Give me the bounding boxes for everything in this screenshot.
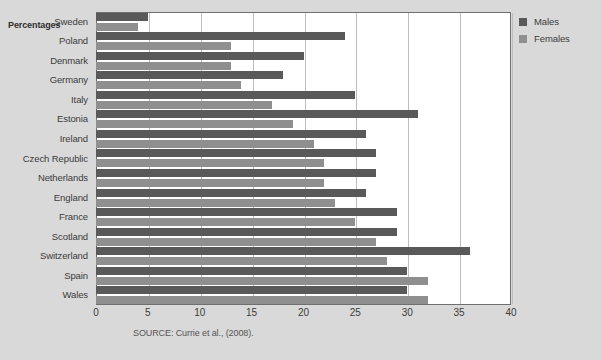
bar-females-france <box>96 218 355 226</box>
category-label-scotland: Scotland <box>52 231 88 242</box>
bar-group <box>96 129 511 149</box>
category-axis: SwedenPolandDenmarkGermanyItalyEstoniaIr… <box>0 12 92 305</box>
x-tick-label-0: 0 <box>93 307 99 318</box>
bar-females-poland <box>96 42 231 50</box>
bars-layer <box>96 12 511 305</box>
bar-females-germany <box>96 81 241 89</box>
legend: MalesFemales <box>519 16 570 50</box>
bar-group <box>96 227 511 247</box>
bar-males-germany <box>96 71 283 79</box>
bar-males-denmark <box>96 52 304 60</box>
bar-males-estonia <box>96 110 418 118</box>
bar-males-poland <box>96 32 345 40</box>
category-label-sweden: Sweden <box>54 16 88 27</box>
bar-males-czech-republic <box>96 149 376 157</box>
bar-females-switzerland <box>96 257 387 265</box>
bar-males-italy <box>96 91 355 99</box>
legend-swatch-icon <box>519 18 527 26</box>
x-tick-label-5: 5 <box>145 307 151 318</box>
bar-females-scotland <box>96 238 376 246</box>
bar-females-wales <box>96 296 428 304</box>
category-label-france: France <box>59 211 88 222</box>
bar-group <box>96 285 511 305</box>
x-tick-label-35: 35 <box>454 307 465 318</box>
bar-males-switzerland <box>96 247 470 255</box>
bar-females-netherlands <box>96 179 324 187</box>
bar-group <box>96 12 511 32</box>
x-tick-label-40: 40 <box>505 307 516 318</box>
x-tick-label-15: 15 <box>246 307 257 318</box>
bar-females-italy <box>96 101 272 109</box>
bar-group <box>96 71 511 91</box>
bar-group <box>96 246 511 266</box>
x-tick-label-25: 25 <box>350 307 361 318</box>
category-label-spain: Spain <box>64 270 88 281</box>
bar-group <box>96 32 511 52</box>
gridline <box>512 13 513 304</box>
x-axis-ticks: 0510152025303540 <box>96 307 511 323</box>
bar-males-sweden <box>96 13 148 21</box>
bar-females-ireland <box>96 140 314 148</box>
category-label-england: England <box>54 192 88 203</box>
category-label-switzerland: Switzerland <box>40 250 88 261</box>
bar-females-spain <box>96 277 428 285</box>
category-label-netherlands: Netherlands <box>38 172 88 183</box>
bar-females-sweden <box>96 23 138 31</box>
x-tick-label-30: 30 <box>402 307 413 318</box>
bar-females-estonia <box>96 120 293 128</box>
category-label-czech-republic: Czech Republic <box>23 153 88 164</box>
bar-group <box>96 266 511 286</box>
figure-container: Percentages SwedenPolandDenmarkGermanyIt… <box>0 0 601 360</box>
bar-group <box>96 188 511 208</box>
x-tick-label-20: 20 <box>298 307 309 318</box>
category-label-poland: Poland <box>59 35 88 46</box>
bar-males-england <box>96 189 366 197</box>
legend-swatch-icon <box>519 35 527 43</box>
legend-label: Females <box>534 33 570 44</box>
bar-males-spain <box>96 267 407 275</box>
bar-males-ireland <box>96 130 366 138</box>
x-tick-label-10: 10 <box>194 307 205 318</box>
bar-group <box>96 207 511 227</box>
legend-item-males[interactable]: Males <box>519 16 570 27</box>
category-label-estonia: Estonia <box>57 113 88 124</box>
category-label-italy: Italy <box>71 94 88 105</box>
bar-males-netherlands <box>96 169 376 177</box>
category-label-ireland: Ireland <box>60 133 88 144</box>
legend-label: Males <box>534 16 559 27</box>
bar-group <box>96 51 511 71</box>
legend-item-females[interactable]: Females <box>519 33 570 44</box>
source-note: SOURCE: Currie et al., (2008). <box>133 328 254 338</box>
bar-group <box>96 149 511 169</box>
bar-males-scotland <box>96 228 397 236</box>
bar-females-england <box>96 199 335 207</box>
bar-females-czech-republic <box>96 159 324 167</box>
category-label-wales: Wales <box>62 289 88 300</box>
bar-group <box>96 90 511 110</box>
bar-group <box>96 168 511 188</box>
bar-females-denmark <box>96 62 231 70</box>
category-label-denmark: Denmark <box>50 55 88 66</box>
category-label-germany: Germany <box>50 74 88 85</box>
bar-group <box>96 110 511 130</box>
bar-males-france <box>96 208 397 216</box>
bar-males-wales <box>96 286 407 294</box>
